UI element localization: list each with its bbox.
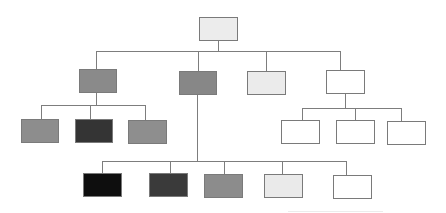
connector-vertical (96, 51, 97, 69)
connector-horizontal (41, 105, 146, 106)
connector-vertical (340, 51, 341, 70)
org-node-l3-b1 (83, 173, 122, 197)
org-node-l2-a3 (128, 120, 167, 144)
org-node-l1-a (79, 69, 117, 93)
org-node-l2-a1 (21, 119, 59, 143)
org-chart-diagram (0, 0, 446, 213)
baseline-rule (288, 211, 383, 212)
connector-horizontal (302, 108, 402, 109)
connector-vertical (346, 161, 347, 175)
org-node-l2-d3 (387, 121, 426, 145)
org-node-root (199, 17, 238, 41)
connector-vertical (218, 41, 219, 51)
org-node-l2-a2 (75, 119, 113, 143)
connector-vertical (41, 105, 42, 119)
connector-vertical (96, 93, 97, 105)
org-node-l3-b3 (204, 174, 243, 198)
connector-vertical (302, 108, 303, 120)
connector-vertical (345, 94, 346, 108)
org-node-l2-d2 (336, 120, 375, 144)
org-node-l3-b4 (264, 174, 303, 198)
connector-vertical (145, 105, 146, 120)
connector-vertical (90, 105, 91, 119)
connector-vertical (102, 161, 103, 173)
connector-vertical (282, 161, 283, 174)
connector-vertical (170, 161, 171, 173)
connector-vertical (198, 51, 199, 71)
connector-vertical (266, 51, 267, 71)
connector-horizontal (96, 51, 341, 52)
org-node-l1-d (326, 70, 365, 94)
org-node-l3-b5 (333, 175, 372, 199)
org-node-l2-d1 (281, 120, 320, 144)
connector-vertical (197, 95, 198, 161)
connector-vertical (224, 161, 225, 174)
org-node-l1-c (247, 71, 286, 95)
org-node-l3-b2 (149, 173, 188, 197)
connector-vertical (355, 108, 356, 120)
org-node-l1-b (179, 71, 217, 95)
connector-vertical (401, 108, 402, 121)
